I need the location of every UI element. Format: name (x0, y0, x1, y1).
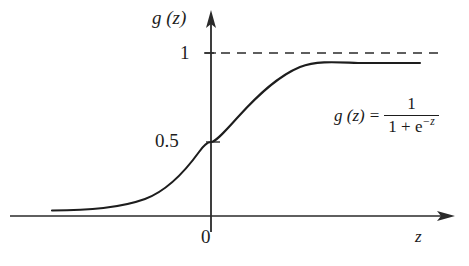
y-tick-label-0.5: 0.5 (155, 131, 179, 150)
formula-function-name: g (z) (334, 106, 365, 126)
x-tick-label-origin: 0 (201, 227, 211, 246)
x-axis-title: z (415, 228, 422, 245)
formula-denominator: 1 + e−z (384, 116, 438, 137)
sigmoid-function-figure: g (z) z 1 0.5 0 g (z) = 1 1 + e−z (0, 0, 469, 266)
y-axis-title: g (z) (152, 8, 186, 27)
formula-fraction: 1 1 + e−z (384, 94, 438, 137)
y-tick-label-1: 1 (180, 43, 190, 62)
formula-equals-sign: = (370, 106, 380, 126)
formula-denominator-exponent: −z (422, 116, 434, 129)
formula-numerator: 1 (401, 94, 422, 115)
formula-annotation: g (z) = 1 1 + e−z (334, 94, 439, 137)
formula-denominator-base: 1 + e (388, 117, 422, 136)
